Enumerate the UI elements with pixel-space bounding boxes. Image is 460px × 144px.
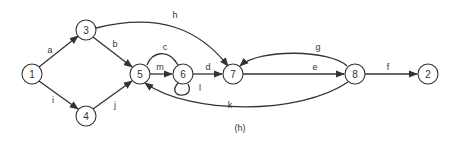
edge-label-i: i: [52, 95, 54, 105]
node-label: 8: [352, 69, 358, 80]
node-label: 3: [83, 25, 89, 36]
edge-label-l: l: [199, 83, 201, 93]
edge-label-h: h: [172, 10, 177, 20]
edge-label-c: c: [163, 42, 168, 52]
edge-label-a: a: [47, 45, 52, 55]
flow-graph: aibjhcmldegkf 13456782 (h): [0, 0, 460, 144]
node-2: 2: [418, 64, 438, 84]
node-label: 5: [137, 69, 143, 80]
edge-l: [175, 83, 190, 95]
node-label: 4: [83, 111, 89, 122]
edge-label-j: j: [113, 100, 116, 110]
edge-label-f: f: [387, 62, 390, 72]
edge-i: [39, 81, 78, 109]
edge-label-m: m: [156, 62, 164, 72]
node-label: 7: [230, 69, 236, 80]
edge-label-e: e: [312, 62, 317, 72]
node-1: 1: [22, 64, 42, 84]
edge-label-k: k: [228, 100, 233, 110]
edge-label-d: d: [205, 62, 210, 72]
node-4: 4: [76, 106, 96, 126]
edge-j: [93, 81, 132, 109]
node-7: 7: [223, 64, 243, 84]
node-label: 2: [425, 69, 431, 80]
edge-g: [240, 53, 347, 66]
figure-caption: (h): [235, 123, 246, 133]
edge-label-g: g: [315, 42, 320, 52]
node-3: 3: [76, 20, 96, 40]
node-label: 6: [180, 69, 186, 80]
node-6: 6: [173, 64, 193, 84]
node-label: 1: [29, 69, 35, 80]
edge-label-b: b: [112, 39, 117, 49]
node-5: 5: [130, 64, 150, 84]
edge-a: [39, 36, 78, 67]
node-8: 8: [345, 64, 365, 84]
